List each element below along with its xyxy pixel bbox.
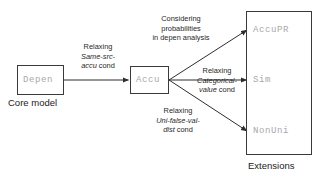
edge-label-accu-to-nonuni: Relaxing Uni-false-val- dist cond (142, 106, 214, 135)
edge-label-line-1: Relaxing (186, 66, 248, 76)
edge-label-line-1: Relaxing (142, 106, 214, 116)
node-accu-label: Accu (136, 75, 160, 85)
edge-label-line-2: Categorical- (186, 76, 248, 86)
edge-label-line-3-rest: cond (97, 61, 115, 70)
edge-label-line-1: Relaxing (69, 42, 127, 52)
node-depen-label: Depen (23, 75, 53, 85)
edge-label-line-2: Uni-false-val- (142, 116, 214, 126)
extensions-caption: Extensions (248, 160, 294, 171)
edge-label-line-3-italic: accu (81, 61, 97, 70)
edge-label-line-3-rest: cond (217, 85, 235, 94)
extension-item-nonuni: NonUni (253, 126, 289, 136)
edge-label-line-2: Same-src- (69, 52, 127, 62)
edge-label-line-1: Considering (140, 14, 222, 24)
edge-label-line-3: in depen analysis (140, 33, 222, 43)
extension-item-sim: Sim (253, 75, 271, 85)
edge-label-accu-to-accupr: Considering probabilities in depen analy… (140, 14, 222, 43)
core-model-caption: Core model (8, 97, 57, 108)
edge-label-accu-to-sim: Relaxing Categorical- value cond (186, 66, 248, 95)
edge-label-depen-to-accu: Relaxing Same-src- accu cond (69, 42, 127, 71)
extension-item-accupr: AccuPR (253, 25, 289, 35)
diagram-canvas: Depen Core model Accu AccuPR Sim NonUni … (0, 0, 329, 181)
edge-label-line-2: probabilities (140, 24, 222, 34)
edge-label-line-3-rest: cond (175, 125, 193, 134)
edge-label-line-3-italic: value (199, 85, 217, 94)
edge-label-line-3-italic: dist (163, 125, 175, 134)
